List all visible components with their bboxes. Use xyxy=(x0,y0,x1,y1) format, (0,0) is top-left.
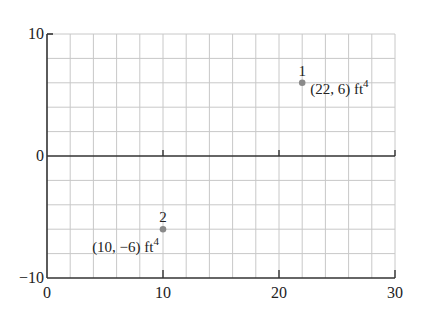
point-id-label: 2 xyxy=(159,209,167,225)
mohr-circle-plot: 0102030−10010 1(22, 6) ft42(10, −6) ft4 xyxy=(0,0,426,320)
tick-labels: 0102030−10010 xyxy=(19,25,403,301)
data-point-2 xyxy=(160,226,167,233)
x-tick-label: 30 xyxy=(387,284,403,301)
x-tick-label: 0 xyxy=(43,284,51,301)
data-points: 1(22, 6) ft42(10, −6) ft4 xyxy=(92,63,369,256)
point-id-label: 1 xyxy=(298,63,306,79)
y-tick-label: −10 xyxy=(19,269,44,286)
x-tick-label: 10 xyxy=(155,284,171,301)
x-tick-label: 20 xyxy=(271,284,287,301)
data-point-1 xyxy=(299,80,306,87)
y-tick-label: 10 xyxy=(28,25,44,42)
coordinate-label: (22, 6) ft4 xyxy=(310,77,369,98)
y-tick-label: 0 xyxy=(36,147,44,164)
coordinate-label: (10, −6) ft4 xyxy=(92,235,159,256)
